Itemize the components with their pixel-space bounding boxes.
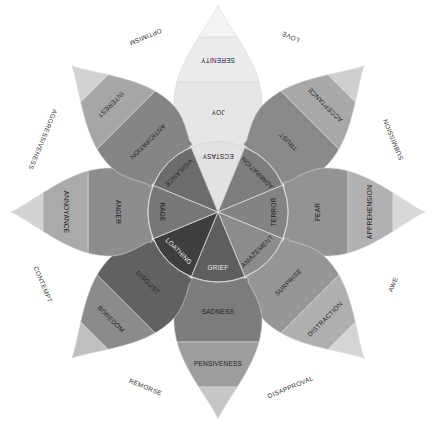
petal-sadness bbox=[174, 278, 262, 419]
label-mild-anger: ANNOYANCE bbox=[63, 191, 70, 234]
dyad-label-contempt: CONTEMPT bbox=[33, 265, 54, 304]
petal-joy-tip-band[interactable] bbox=[199, 5, 238, 37]
label-intense-joy: ECSTASY bbox=[202, 153, 234, 160]
label-mild-sadness: PENSIVENESS bbox=[194, 360, 243, 367]
petal-anger bbox=[11, 168, 152, 256]
label-basic-sadness: SADNESS bbox=[202, 308, 235, 315]
plutchik-wheel-of-emotions: ECSTASYJOYSERENITYADMIRATIONTRUSTACCEPTA… bbox=[0, 0, 440, 424]
label-intense-fear: TERROR bbox=[270, 198, 277, 227]
label-intense-anger: RAGE bbox=[159, 202, 166, 222]
label-basic-fear: FEAR bbox=[314, 203, 321, 221]
dyad-label-awe: AWE bbox=[387, 276, 400, 293]
petal-joy bbox=[174, 5, 262, 146]
dyad-label-submission: SUBMISSION bbox=[381, 118, 404, 161]
petal-fear-tip-band[interactable] bbox=[393, 193, 425, 232]
dyad-label-aggressiveness: AGGRESSIVENESS bbox=[27, 108, 58, 171]
petal-fear bbox=[284, 168, 425, 256]
label-mild-fear: APPREHENSION bbox=[366, 185, 373, 239]
label-basic-joy: JOY bbox=[211, 109, 225, 116]
dyad-label-remorse: REMORSE bbox=[128, 377, 163, 397]
dyad-label-disapproval: DISAPPROVAL bbox=[267, 374, 315, 399]
label-mild-joy: SERENITY bbox=[200, 57, 235, 64]
core-circle-layer bbox=[148, 142, 288, 282]
label-basic-anger: ANGER bbox=[115, 200, 122, 224]
dyad-label-love: LOVE bbox=[280, 30, 300, 44]
label-intense-sadness: GRIEF bbox=[208, 264, 229, 271]
dyad-label-optimism: OPTIMISM bbox=[128, 27, 163, 47]
petal-sadness-tip-band[interactable] bbox=[199, 387, 238, 419]
petal-anger-tip-band[interactable] bbox=[11, 193, 43, 232]
